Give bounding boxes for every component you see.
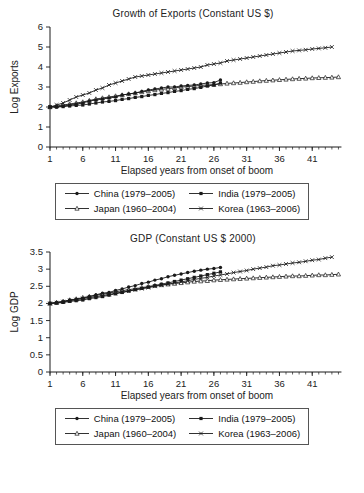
svg-text:26: 26 — [209, 378, 220, 389]
svg-text:11: 11 — [111, 378, 121, 389]
svg-text:36: 36 — [274, 378, 285, 389]
gdp-plot-area: 00.511.522.533.51611162126313641 Log GDP — [0, 244, 364, 396]
svg-text:36: 36 — [274, 153, 285, 164]
svg-text:11: 11 — [111, 153, 121, 164]
svg-text:1: 1 — [47, 153, 52, 164]
legend-label-india: India (1979–2005) — [218, 413, 295, 424]
legend-entry-china: China (1979–2005) — [64, 188, 176, 199]
exports-plot-svg: 01234561611162126313641 — [0, 19, 364, 171]
legend-entry-china: China (1979–2005) — [64, 413, 176, 424]
axes — [50, 252, 341, 372]
svg-text:0: 0 — [38, 366, 43, 377]
exports-y-axis-label: Log Exports — [9, 60, 20, 113]
gdp-legend: China (1979–2005) India (1979–2005) Japa… — [55, 408, 309, 445]
legend-entry-korea: Korea (1963–2006) — [188, 428, 300, 439]
svg-text:2.5: 2.5 — [30, 280, 43, 291]
svg-text:3: 3 — [38, 81, 43, 92]
svg-text:1: 1 — [38, 332, 43, 343]
svg-text:31: 31 — [241, 378, 252, 389]
exports-plot-area: 01234561611162126313641 Log Exports — [0, 19, 364, 171]
svg-text:16: 16 — [143, 378, 154, 389]
svg-text:16: 16 — [143, 153, 154, 164]
series-china — [48, 78, 222, 108]
svg-text:1.5: 1.5 — [30, 315, 43, 326]
exports-chart: Growth of Exports (Constant US $) 012345… — [0, 5, 364, 220]
india-filled-square-icon — [188, 189, 214, 198]
legend-entry-japan: Japan (1960–2004) — [64, 203, 176, 214]
svg-text:2: 2 — [38, 297, 43, 308]
exports-chart-title: Growth of Exports (Constant US $) — [0, 5, 364, 19]
gdp-chart: GDP (Constant US $ 2000) 00.511.522.533.… — [0, 230, 364, 445]
japan-open-triangle-icon — [64, 204, 90, 213]
legend-entry-india: India (1979–2005) — [188, 413, 300, 424]
korea-cross-icon — [188, 204, 214, 213]
svg-text:26: 26 — [209, 153, 220, 164]
svg-text:2: 2 — [38, 101, 43, 112]
legend-entry-japan: Japan (1960–2004) — [64, 428, 176, 439]
legend-label-china: China (1979–2005) — [94, 188, 175, 199]
korea-cross-icon — [188, 429, 214, 438]
legend-label-korea: Korea (1963–2006) — [218, 428, 300, 439]
gdp-chart-title: GDP (Constant US $ 2000) — [0, 230, 364, 244]
svg-text:0: 0 — [38, 141, 43, 152]
legend-label-japan: Japan (1960–2004) — [94, 203, 176, 214]
exports-legend: China (1979–2005) India (1979–2005) Japa… — [55, 183, 309, 220]
svg-text:5: 5 — [38, 41, 43, 52]
legend-entry-india: India (1979–2005) — [188, 188, 300, 199]
series-korea — [48, 45, 334, 109]
svg-text:4: 4 — [38, 61, 43, 72]
svg-text:6: 6 — [38, 21, 43, 32]
svg-text:6: 6 — [80, 153, 85, 164]
china-filled-circle-icon — [64, 414, 90, 423]
legend-label-china: China (1979–2005) — [94, 413, 175, 424]
japan-open-triangle-icon — [64, 429, 90, 438]
two-panel-growth-figure: Growth of Exports (Constant US $) 012345… — [0, 0, 364, 445]
svg-text:0.5: 0.5 — [30, 349, 43, 360]
legend-label-korea: Korea (1963–2006) — [218, 203, 300, 214]
svg-text:41: 41 — [307, 153, 318, 164]
tick-labels: 01234561611162126313641 — [38, 21, 318, 164]
legend-label-japan: Japan (1960–2004) — [94, 428, 176, 439]
svg-text:21: 21 — [176, 378, 187, 389]
india-filled-square-icon — [188, 414, 214, 423]
svg-text:3.5: 3.5 — [30, 246, 43, 257]
tick-marks — [46, 252, 338, 376]
gdp-y-axis-label: Log GDP — [9, 291, 20, 332]
svg-text:31: 31 — [241, 153, 252, 164]
svg-text:3: 3 — [38, 263, 43, 274]
china-filled-circle-icon — [64, 189, 90, 198]
series-china — [48, 266, 222, 305]
svg-text:21: 21 — [176, 153, 187, 164]
svg-text:1: 1 — [38, 121, 43, 132]
legend-label-india: India (1979–2005) — [218, 188, 295, 199]
gdp-plot-svg: 00.511.522.533.51611162126313641 — [0, 244, 364, 396]
svg-text:6: 6 — [80, 378, 85, 389]
svg-text:41: 41 — [307, 378, 318, 389]
legend-entry-korea: Korea (1963–2006) — [188, 203, 300, 214]
svg-text:1: 1 — [47, 378, 52, 389]
